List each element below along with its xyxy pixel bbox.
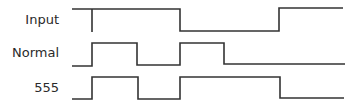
waveform-normal (72, 43, 345, 66)
waveform-input (72, 8, 343, 32)
waveforms (0, 0, 361, 109)
waveform-555 (72, 77, 344, 99)
